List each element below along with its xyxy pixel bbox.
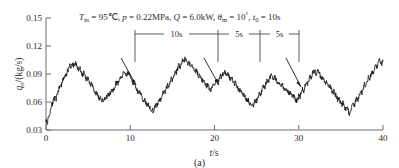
data-series-line xyxy=(46,57,383,125)
x-tick-label-1: 10 xyxy=(126,133,136,143)
x-tick-label-3: 30 xyxy=(294,133,304,143)
x-tick-label-2: 20 xyxy=(210,133,220,143)
x-axis-ticks: 0 10 20 30 40 xyxy=(44,125,388,143)
y-tick-label-4: 0.15 xyxy=(26,13,42,23)
y-tick-label-2: 0.09 xyxy=(26,69,42,79)
x-tick-label-0: 0 xyxy=(44,133,49,143)
figure-caption-wrap: (a) xyxy=(0,152,399,168)
trough-arrow-2 xyxy=(204,58,219,85)
figure-caption: (a) xyxy=(194,157,205,168)
y-tick-label-0: 0.03 xyxy=(26,125,42,135)
y-tick-label-1: 0.06 xyxy=(26,97,42,107)
span-label-5s-a: 5s xyxy=(235,29,243,39)
span-label-10s: 10s xyxy=(171,29,183,39)
chart-svg: Tin = 95℃, p = 0.22MPa, Q = 6.0kW, θm = … xyxy=(0,0,399,168)
annotation-spans: 10s 5s 5s xyxy=(135,29,299,62)
y-axis-ticks: 0.03 0.06 0.09 0.12 0.15 xyxy=(26,13,51,135)
trough-arrow-3 xyxy=(286,58,301,87)
y-axis-title: qo/(kg/s) xyxy=(14,58,25,91)
chart-title-text: Tin = 95℃, p = 0.22MPa, Q = 6.0kW, θm = … xyxy=(79,11,281,23)
chart-title: Tin = 95℃, p = 0.22MPa, Q = 6.0kW, θm = … xyxy=(79,11,281,23)
span-label-5s-b: 5s xyxy=(276,29,284,39)
x-tick-label-4: 40 xyxy=(379,133,389,143)
figure-container: Tin = 95℃, p = 0.22MPa, Q = 6.0kW, θm = … xyxy=(0,0,399,168)
y-tick-label-3: 0.12 xyxy=(26,41,42,51)
y-axis-title-text: qo/(kg/s) xyxy=(14,58,25,91)
trough-arrows xyxy=(121,58,301,87)
